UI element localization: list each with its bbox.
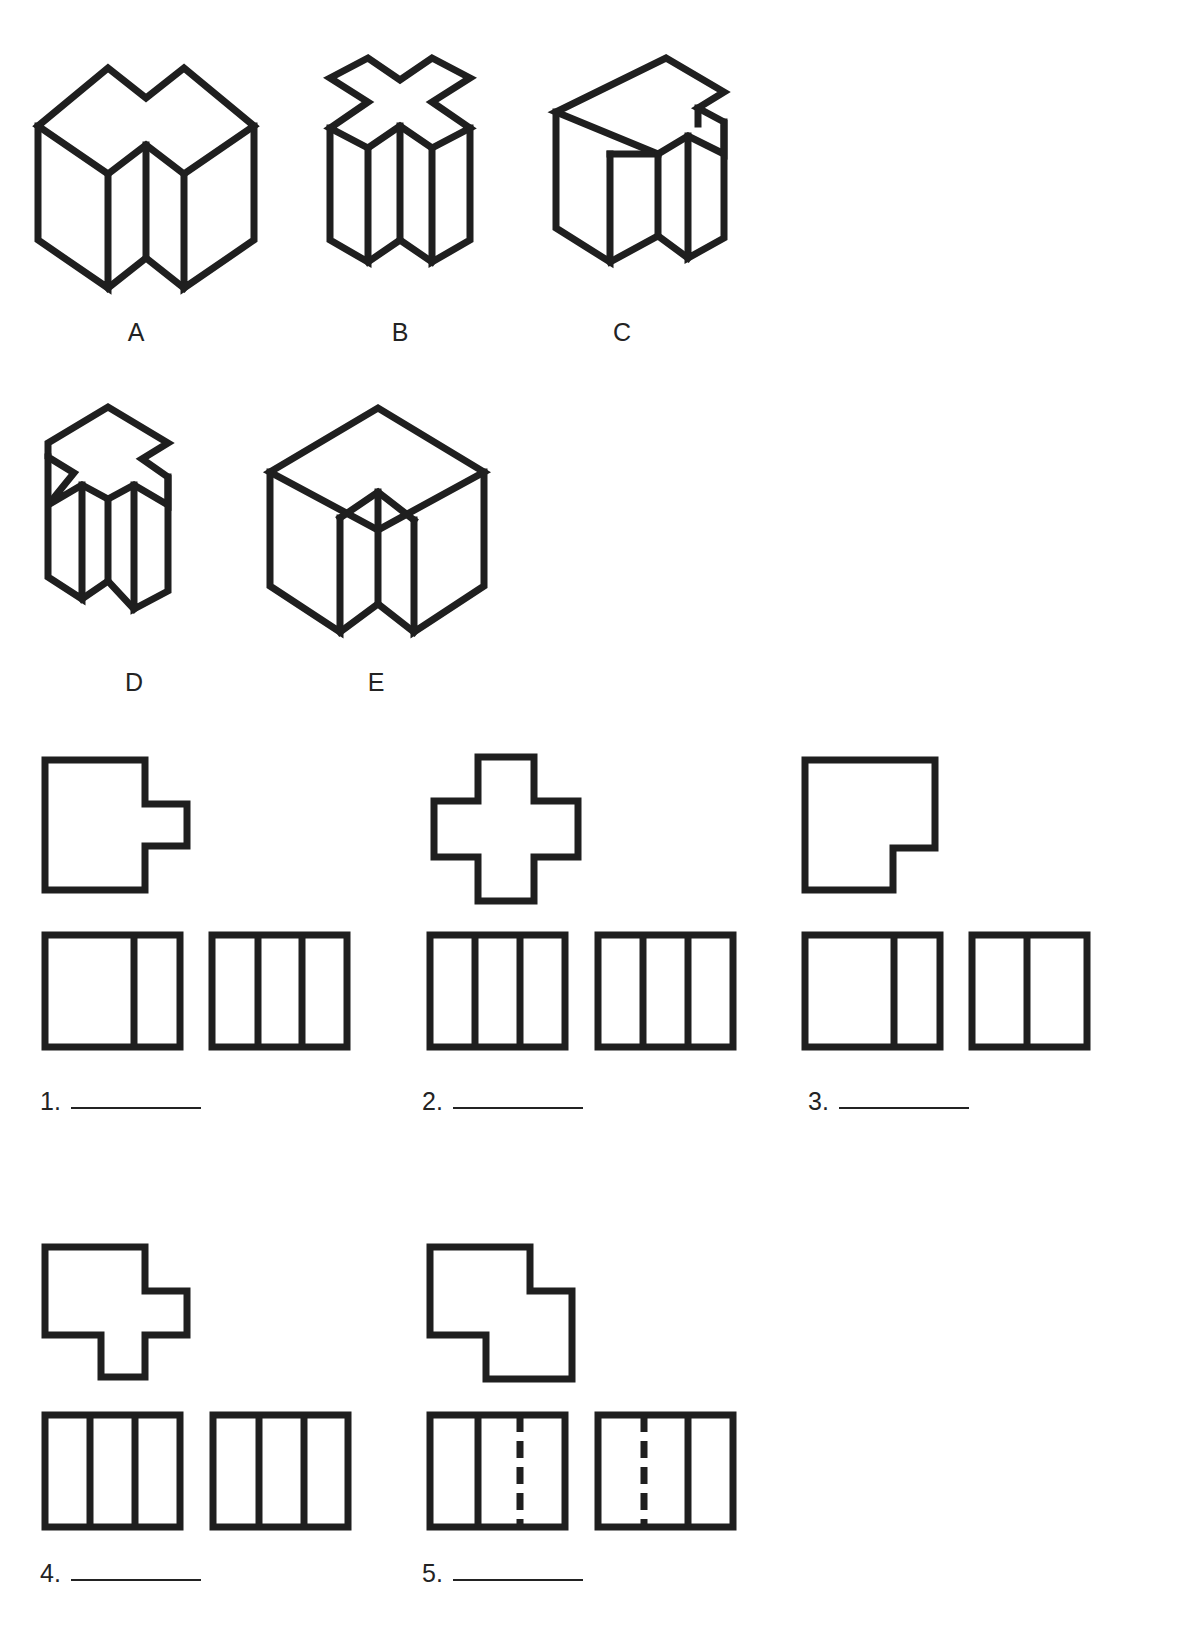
problem-2-answer[interactable]: 2.	[422, 1088, 583, 1114]
pictorial-b	[322, 50, 478, 295]
problem-1-answer[interactable]: 1.	[40, 1088, 201, 1114]
problem-3-side-view	[967, 930, 1092, 1052]
top-view-outline	[430, 1247, 572, 1379]
problem-2-number: 2.	[422, 1088, 443, 1114]
problem-4-top-view	[40, 1242, 192, 1384]
top-view-outline	[45, 760, 187, 890]
problem-5-top-view	[425, 1242, 577, 1386]
pictorial-c-label: C	[592, 320, 652, 345]
pictorial-c	[548, 50, 732, 295]
top-view-outline	[805, 760, 935, 890]
problem-5-answer[interactable]: 5.	[422, 1560, 583, 1586]
pictorial-d-label: D	[104, 670, 164, 695]
problem-2-front-view	[425, 930, 570, 1052]
problem-4-answer-blank[interactable]	[71, 1579, 201, 1581]
problem-3-top-view	[800, 755, 942, 897]
problem-5-front-view	[425, 1410, 570, 1532]
pictorial-e-label: E	[346, 670, 406, 695]
problem-2-top-view	[429, 752, 583, 906]
problem-1-side-view	[207, 930, 352, 1052]
problem-3-answer-blank[interactable]	[839, 1107, 969, 1109]
problem-3-answer[interactable]: 3.	[808, 1088, 969, 1114]
problem-1-front-view	[40, 930, 185, 1052]
problem-3-number: 3.	[808, 1088, 829, 1114]
problem-4-number: 4.	[40, 1560, 61, 1586]
pictorial-b-label: B	[370, 320, 430, 345]
instruction-text	[36, 0, 1036, 7]
problem-3-front-view	[800, 930, 945, 1052]
top-view-outline	[434, 757, 578, 901]
problem-5-side-view	[593, 1410, 738, 1532]
problem-5-answer-blank[interactable]	[453, 1579, 583, 1581]
problem-4-front-view	[40, 1410, 185, 1532]
problem-2-answer-blank[interactable]	[453, 1107, 583, 1109]
problem-1-answer-blank[interactable]	[71, 1107, 201, 1109]
problem-4-answer[interactable]: 4.	[40, 1560, 201, 1586]
problem-5-number: 5.	[422, 1560, 443, 1586]
top-view-outline	[45, 1247, 187, 1377]
pictorial-a	[30, 50, 262, 295]
pictorial-e	[262, 400, 492, 640]
problem-2-side-view	[593, 930, 738, 1052]
problem-4-side-view	[208, 1410, 353, 1532]
pictorial-d	[30, 395, 198, 635]
problem-1-top-view	[40, 755, 192, 895]
pictorial-a-label: A	[106, 320, 166, 345]
problem-1-number: 1.	[40, 1088, 61, 1114]
